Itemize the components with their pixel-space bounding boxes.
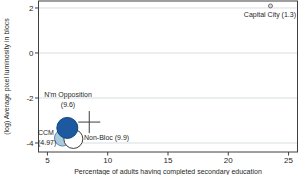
annotation-ccm: CCM (4.97) (38, 128, 56, 147)
x-tick-label-15: 15 (164, 156, 173, 165)
annotation-ccm-value: (4.97) (38, 138, 56, 148)
y-tick-label-2: 2 (29, 4, 34, 13)
bubble-scatter-figure: 20-2-4510152025 (log) Average pixel lumi… (0, 0, 301, 175)
y-tick-label-0: 0 (29, 49, 34, 58)
x-axis-title: Percentage of adults having completed se… (38, 167, 298, 175)
annotation-capital-city: Capital City (1.3) (244, 10, 296, 20)
annotation-nm-opposition-value: (9.6) (28, 100, 108, 110)
y-tick-label--4: -4 (26, 139, 34, 148)
x-tick-label-10: 10 (103, 156, 112, 165)
annotation-non-bloc: Non-Bloc (9.9) (84, 133, 129, 143)
x-tick-label-20: 20 (224, 156, 233, 165)
bubble-capital-city (268, 4, 272, 8)
x-tick-label-5: 5 (45, 156, 50, 165)
bubble-n-m-opposition (57, 117, 78, 138)
x-tick-label-25: 25 (284, 156, 293, 165)
plot-area: 20-2-4510152025 (0, 0, 301, 175)
annotation-ccm-name: CCM (38, 128, 56, 138)
annotation-nm-opposition-name: N'm Opposition (28, 90, 108, 100)
y-axis-title: (log) Average pixel luminosity in blocs (2, 1, 11, 152)
annotation-nm-opposition: N'm Opposition (9.6) (28, 90, 108, 109)
